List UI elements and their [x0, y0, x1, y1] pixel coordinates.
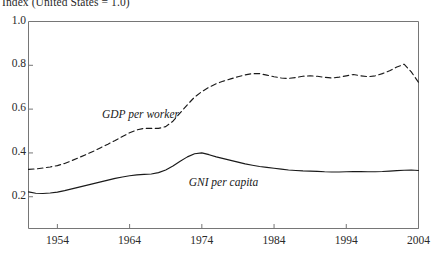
x-axis-tick-label: 1994 — [324, 234, 368, 246]
y-axis-tick-label: 1.0 — [0, 14, 26, 26]
y-axis-tick-label: 0.4 — [0, 145, 26, 157]
series-line-gdp-per-worker — [29, 64, 419, 169]
x-axis-tick-label: 2004 — [397, 234, 440, 246]
y-axis-tick-label: 0.2 — [0, 189, 26, 201]
x-axis-tick-label: 1954 — [35, 234, 79, 246]
y-axis-tick-label: 0.6 — [0, 101, 26, 113]
x-axis-tick-label: 1974 — [180, 234, 224, 246]
plot-frame — [29, 22, 419, 229]
x-axis-tick-label: 1984 — [252, 234, 296, 246]
data-series — [29, 64, 419, 193]
x-axis-tick-label: 1964 — [108, 234, 152, 246]
chart-container: Index (United States = 1.0) 1.00.80.60.4… — [0, 0, 440, 253]
series-label-gni-per-capita: GNI per capita — [189, 176, 259, 188]
y-axis-tick-label: 0.8 — [0, 57, 26, 69]
plot-area — [0, 0, 440, 253]
series-label-gdp-per-worker: GDP per worker — [102, 108, 179, 120]
axis-ticks — [29, 65, 419, 228]
plot-border — [29, 22, 419, 229]
